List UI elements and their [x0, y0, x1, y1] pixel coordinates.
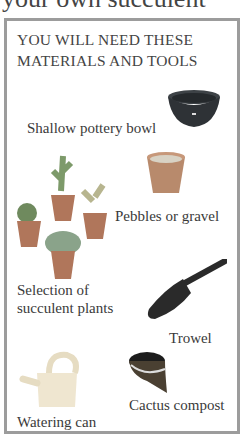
materials-title: YOU WILL NEED THESE MATERIALS AND TOOLS	[17, 29, 198, 71]
item-label-gravel: Pebbles or gravel	[115, 207, 219, 225]
succulents-line-2: succulent plants	[17, 299, 113, 317]
pottery-bowl-icon	[166, 89, 222, 129]
compost-bag-icon	[125, 351, 171, 395]
item-label-compost: Cactus compost	[129, 396, 224, 414]
trowel-icon	[145, 259, 227, 323]
item-label-trowel: Trowel	[169, 329, 212, 347]
cut-off-heading: your own succulent	[2, 0, 206, 14]
watering-can-icon	[19, 351, 81, 411]
item-label-bowl: Shallow pottery bowl	[27, 119, 156, 137]
succulents-line-1: Selection of	[17, 281, 113, 299]
item-label-watering-can: Watering can	[17, 413, 96, 431]
item-label-succulents: Selection of succulent plants	[17, 281, 113, 317]
succulent-plants-icon	[13, 151, 123, 281]
title-line-1: YOU WILL NEED THESE	[17, 29, 198, 50]
title-line-2: MATERIALS AND TOOLS	[17, 50, 198, 71]
gravel-pot-icon	[145, 151, 187, 195]
materials-box: YOU WILL NEED THESE MATERIALS AND TOOLS …	[4, 18, 240, 434]
